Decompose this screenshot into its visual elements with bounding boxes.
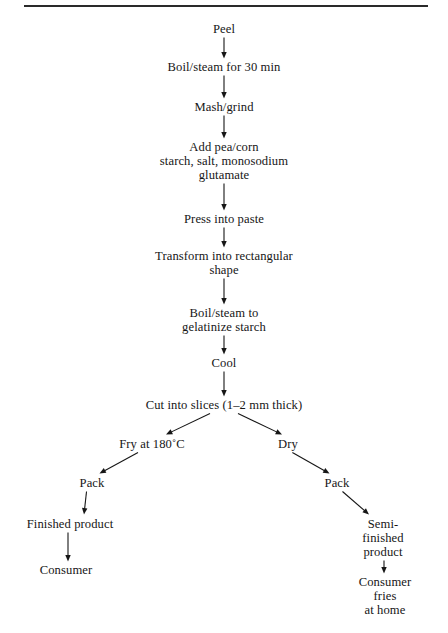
flow-node-fry: Fry at 180˚C [119,437,185,451]
flow-node-pack_right: Pack [325,476,350,490]
edge-dry-to-pack_right-line [292,453,326,472]
flow-node-add: Add pea/corn starch, salt, monosodium gl… [160,140,288,182]
edge-add-to-press-head [221,204,226,210]
flow-node-consumer: Consumer [40,563,93,577]
flow-node-cool: Cool [212,356,237,370]
flow-node-transform: Transform into rectangular shape [155,249,293,277]
flow-node-mash: Mash/grind [194,100,253,114]
edge-transform-to-boil2-head [221,298,226,304]
flow-node-dry: Dry [278,437,298,451]
edge-press-to-transform-head [221,241,226,247]
flow-node-consumer_fries: Consumer fries at home [354,575,417,617]
edge-fry-to-pack_left-line [102,453,138,472]
edge-mash-to-add-head [221,132,226,138]
edge-pack_right-to-semi-line [342,492,366,513]
flowchart-sheet: PeelBoil/steam for 30 minMash/grindAdd p… [0,0,448,633]
edge-cool-to-cut-head [221,390,226,396]
flow-node-finished: Finished product [27,517,114,531]
edge-cut-to-fry-line [169,414,210,434]
flow-node-cut: Cut into slices (1–2 mm thick) [146,398,303,412]
edge-semi-to-consumer_fries-head [381,567,386,573]
flow-node-pack_left: Pack [80,476,105,490]
edge-peel-to-boil1-head [221,52,226,58]
flow-node-boil1: Boil/steam for 30 min [168,60,281,74]
flow-node-boil2: Boil/steam to gelatinize starch [182,306,266,334]
flow-node-peel: Peel [213,22,235,36]
flow-node-press: Press into paste [184,212,264,226]
edge-boil2-to-cool-head [221,348,226,354]
edge-finished-to-consumer-head [65,555,70,561]
edge-cut-to-dry-line [238,414,279,434]
flow-node-semi: Semi-finished product [351,517,416,559]
edge-boil1-to-mash-head [221,92,226,98]
edge-pack_left-to-finished-head [82,508,87,515]
